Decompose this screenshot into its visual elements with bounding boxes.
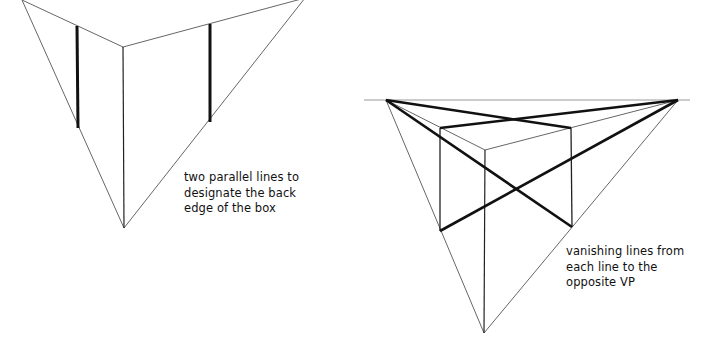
caption-back-edges: two parallel lines to designate the back…: [184, 170, 299, 217]
figure-vanishing-lines: [364, 100, 690, 333]
vanishing-line-left-vp-to-bottom: [22, 0, 124, 228]
thick-vanishing-right-vp-to-box-bottom-left: [440, 100, 678, 231]
front-vertical-edge: [123, 47, 124, 228]
front-vertical-edge: [484, 150, 485, 333]
back-edge-right: [571, 128, 572, 227]
perspective-diagram: [0, 0, 703, 353]
thick-vanishing-left-vp-to-box-bottom-right: [386, 100, 572, 227]
top-edge-right: [123, 0, 305, 47]
caption-vanishing-lines: vanishing lines from each line to the op…: [566, 244, 684, 291]
right-vp-to-bottom: [484, 100, 678, 333]
top-edge-right: [485, 100, 678, 150]
back-edge-left: [77, 26, 78, 128]
top-edge-left: [22, 0, 123, 47]
